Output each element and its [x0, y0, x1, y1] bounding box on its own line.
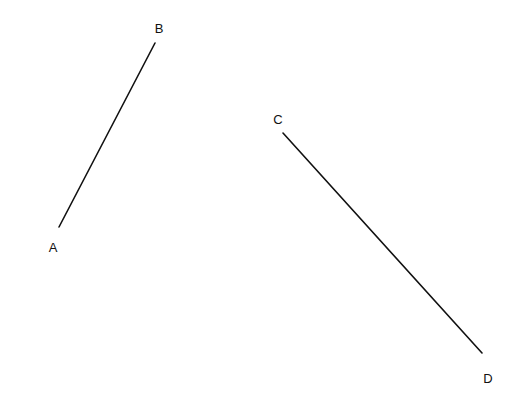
point-label-c: C — [273, 112, 282, 127]
diagram-canvas: A B C D — [0, 0, 521, 411]
point-label-b: B — [155, 21, 164, 36]
segment-ab — [59, 43, 155, 227]
segment-cd — [283, 133, 482, 353]
point-label-d: D — [483, 371, 492, 386]
point-label-a: A — [49, 240, 58, 255]
